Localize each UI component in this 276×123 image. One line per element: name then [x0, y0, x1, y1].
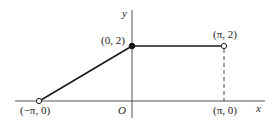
open-point-neg-pi-0 — [36, 98, 41, 103]
open-point-pi-2 — [221, 43, 226, 48]
point-label-pi-0: (π, 0) — [213, 105, 237, 116]
filled-point-0-2 — [129, 43, 135, 49]
y-axis-label: y — [122, 8, 127, 19]
x-axis-label: x — [256, 103, 261, 114]
point-label-neg-pi-0: (−π, 0) — [20, 105, 50, 116]
sloped-segment — [41, 46, 132, 100]
origin-label: O — [118, 105, 126, 116]
point-label-pi-2: (π, 2) — [213, 29, 237, 40]
point-label-0-2: (0, 2) — [101, 35, 125, 46]
